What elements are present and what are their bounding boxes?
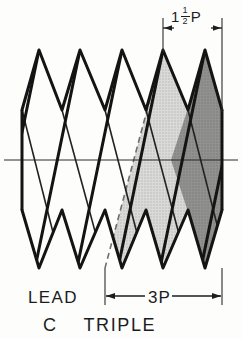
- lead-arrow-right: [212, 293, 221, 299]
- pitch-fraction: 1 2: [181, 6, 190, 26]
- pitch-dimension-label: 1 1 2 P: [171, 6, 201, 26]
- fraction-denominator: 2: [182, 17, 190, 26]
- pitch-unit: P: [191, 8, 202, 25]
- figure-caption: C TRIPLE: [43, 315, 156, 336]
- lead-arrow-left: [106, 293, 115, 299]
- caption-text: TRIPLE: [84, 315, 157, 335]
- lead-label: LEAD: [28, 288, 78, 308]
- lead-span-label: 3P: [148, 288, 171, 308]
- thread-crest-outline: [22, 50, 222, 110]
- pitch-whole-number: 1: [171, 8, 180, 25]
- fraction-numerator: 1: [182, 6, 190, 15]
- thread-diagram-figure: 1 1 2 P LEAD 3P C TRIPLE: [0, 0, 242, 339]
- caption-prefix: C: [43, 315, 58, 335]
- pitch-arrow-right: [213, 25, 221, 31]
